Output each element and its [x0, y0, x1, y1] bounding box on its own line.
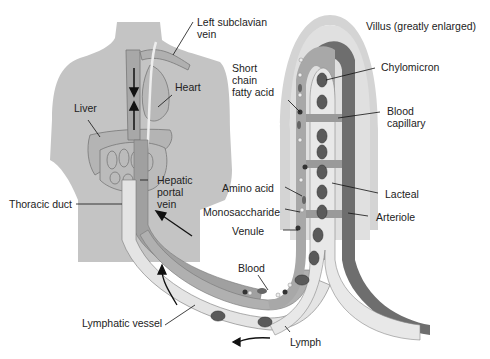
lymphatic-vessel-label: Lymphatic vessel [82, 317, 162, 329]
lymph-label: Lymph [290, 336, 321, 348]
label-line: Blood [387, 105, 426, 117]
monosaccharide-label: Monosaccharide [203, 206, 280, 218]
digestive-absorption-diagram [0, 0, 490, 359]
label-line: chain [232, 74, 274, 86]
left-subclavian-vein-label: Left subclavian vein [197, 16, 267, 40]
label-line: Hepatic [157, 174, 193, 186]
hepatic-portal-vein-label: Hepatic portal vein [157, 174, 193, 210]
label-line: capillary [387, 117, 426, 129]
arteriole-label: Arteriole [376, 211, 415, 223]
lacteal-label: Lacteal [385, 188, 419, 200]
label-line: vein [197, 28, 267, 40]
label-line: Short [232, 62, 274, 74]
label-line: portal [157, 186, 193, 198]
amino-acid-label: Amino acid [222, 182, 274, 194]
venule-label: Venule [232, 225, 264, 237]
heart-label: Heart [175, 81, 201, 93]
label-line: fatty acid [232, 86, 274, 98]
label-line: Left subclavian [197, 16, 267, 28]
blood-label: Blood [238, 262, 265, 274]
villus-title: Villus (greatly enlarged) [366, 20, 476, 32]
label-line: vein [157, 198, 193, 210]
liver-label: Liver [74, 102, 97, 114]
blood-capillary-label: Blood capillary [387, 105, 426, 129]
chylomicron-label: Chylomicron [381, 61, 439, 73]
short-chain-fatty-acid-label: Short chain fatty acid [232, 62, 274, 98]
thoracic-duct-label: Thoracic duct [9, 198, 72, 210]
